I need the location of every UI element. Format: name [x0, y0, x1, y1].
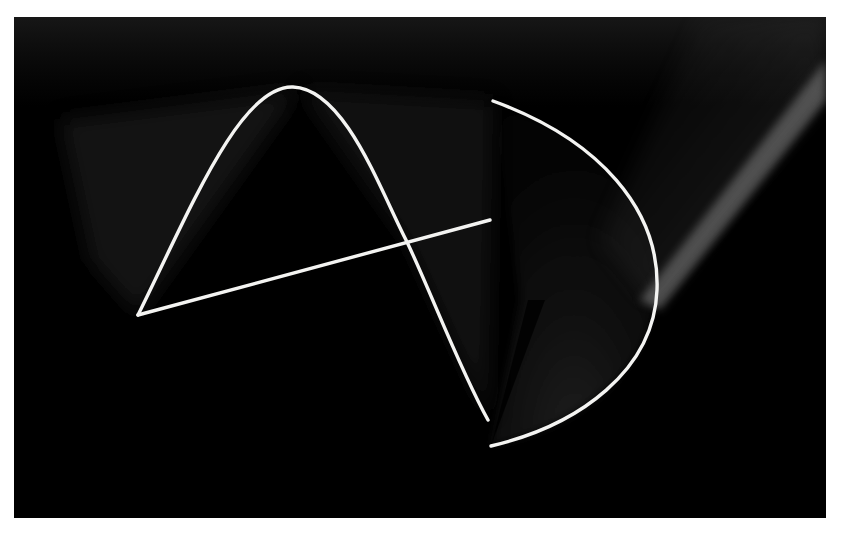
photo-frame [14, 17, 826, 518]
light-trails [14, 17, 826, 518]
